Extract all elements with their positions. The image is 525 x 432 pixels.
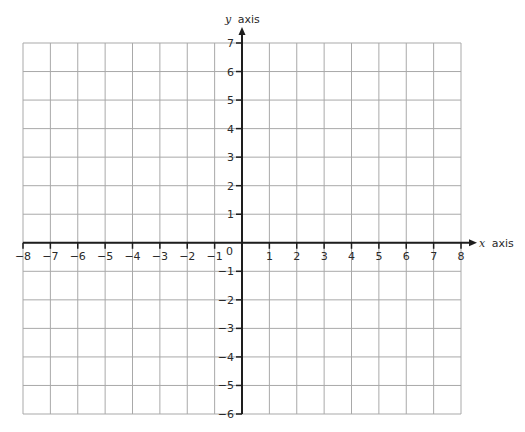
x-axis-ticks: −8−7−6−5−4−3−2−112345678 xyxy=(15,243,465,263)
x-tick-label: 7 xyxy=(430,250,437,263)
y-tick-label: 5 xyxy=(227,94,234,107)
y-axis-word: axis xyxy=(238,13,260,26)
y-tick-label: −2 xyxy=(218,294,234,307)
y-tick-label: 6 xyxy=(227,66,234,79)
x-tick-label: 4 xyxy=(348,250,355,263)
y-tick-label: −6 xyxy=(218,408,234,421)
x-tick-label: 1 xyxy=(266,250,273,263)
y-axis-ticks: −6−5−4−3−2−11234567 xyxy=(218,37,242,421)
y-tick-label: −3 xyxy=(218,322,234,335)
x-tick-label: 6 xyxy=(403,250,410,263)
y-tick-label: −1 xyxy=(218,265,234,278)
y-axis-arrow-icon xyxy=(239,27,246,35)
y-tick-label: 2 xyxy=(227,180,234,193)
y-tick-label: 1 xyxy=(227,208,234,221)
y-tick-label: 3 xyxy=(227,151,234,164)
x-axis-arrow-icon xyxy=(469,239,477,246)
origin-label: 0 xyxy=(226,245,233,258)
x-tick-label: −6 xyxy=(70,250,86,263)
y-tick-label: −4 xyxy=(218,351,234,364)
x-axis-variable: x xyxy=(479,237,486,250)
x-tick-label: 2 xyxy=(293,250,300,263)
x-tick-label: −2 xyxy=(179,250,195,263)
x-tick-label: −4 xyxy=(124,250,140,263)
y-axis-title: y axis xyxy=(224,13,260,26)
x-tick-label: 5 xyxy=(375,250,382,263)
x-axis-title: x axis xyxy=(479,237,514,250)
x-tick-label: −8 xyxy=(15,250,31,263)
x-tick-label: −3 xyxy=(152,250,168,263)
coordinate-grid-chart: −8−7−6−5−4−3−2−112345678 −6−5−4−3−2−1123… xyxy=(0,0,525,432)
x-tick-label: −7 xyxy=(42,250,58,263)
x-tick-label: 3 xyxy=(321,250,328,263)
x-tick-label: 8 xyxy=(458,250,465,263)
x-tick-label: −1 xyxy=(207,250,223,263)
y-tick-label: −5 xyxy=(218,379,234,392)
x-tick-label: −5 xyxy=(97,250,113,263)
y-tick-label: 7 xyxy=(227,37,234,50)
axes xyxy=(23,27,477,414)
x-axis-word: axis xyxy=(492,237,514,250)
y-tick-label: 4 xyxy=(227,123,234,136)
y-axis-variable: y xyxy=(224,13,232,26)
